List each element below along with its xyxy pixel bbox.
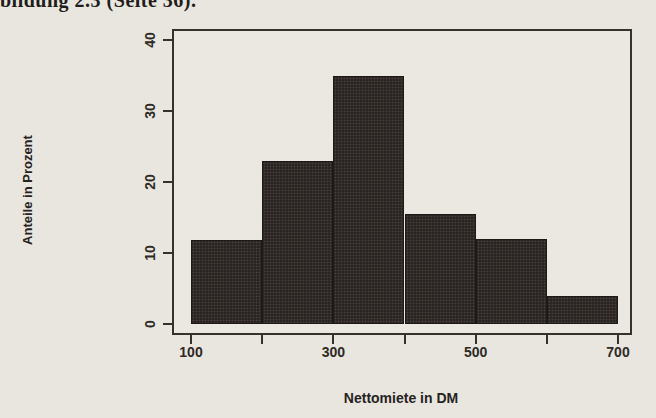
histogram-bar-600-700 [547, 296, 618, 324]
histogram-bar-300-400 [333, 76, 404, 325]
y-tick-label-0: 0 [142, 320, 158, 328]
y-tick-label-10: 10 [142, 245, 158, 261]
x-tick-label-100: 100 [179, 344, 202, 360]
y-axis-tick-10 [163, 252, 172, 254]
y-axis-tick-30 [163, 110, 172, 112]
histogram-bar-200-300 [262, 161, 333, 324]
scanned-page: bildung 2.3 (Seite 36). Anteile in Proze… [0, 0, 656, 418]
histogram-bar-400-500 [405, 214, 476, 324]
y-axis-tick-20 [163, 181, 172, 183]
x-axis-tick-600 [546, 335, 548, 344]
x-tick-label-700: 700 [606, 344, 629, 360]
x-axis-tick-100 [190, 335, 192, 344]
plot-area: 100300500700010203040 [172, 29, 632, 335]
x-axis-tick-200 [261, 335, 263, 344]
y-axis-tick-0 [163, 323, 172, 325]
x-axis-tick-300 [332, 335, 334, 344]
y-axis-title: Anteile in Prozent [20, 135, 35, 245]
y-tick-label-30: 30 [142, 103, 158, 119]
caption-text: bildung 2.3 (Seite 36). [0, 0, 197, 12]
x-axis-tick-400 [404, 335, 406, 344]
y-tick-label-40: 40 [142, 32, 158, 48]
histogram-bar-500-600 [476, 239, 547, 324]
x-tick-label-300: 300 [322, 344, 345, 360]
y-tick-label-20: 20 [142, 174, 158, 190]
histogram-bar-100-200 [191, 240, 262, 324]
page-caption-clipped: bildung 2.3 (Seite 36). [0, 0, 340, 13]
x-axis-title: Nettomiete in DM [344, 390, 458, 406]
x-tick-label-500: 500 [464, 344, 487, 360]
y-axis-tick-40 [163, 39, 172, 41]
x-axis-tick-700 [617, 335, 619, 344]
x-axis-tick-500 [475, 335, 477, 344]
